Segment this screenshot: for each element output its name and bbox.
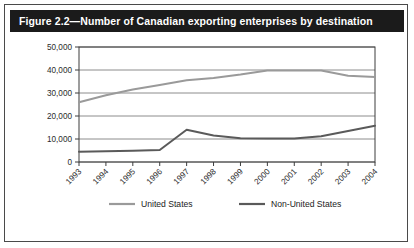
- chart-legend: United StatesNon-United States: [109, 199, 341, 209]
- x-axis-tick-label: 1993: [64, 167, 84, 187]
- y-axis-tick-label: 30,000: [47, 89, 72, 98]
- x-axis-tick-label: 2000: [253, 167, 273, 187]
- y-axis-tick-label: 20,000: [47, 112, 72, 121]
- plot-area-border: [79, 47, 375, 162]
- gridlines: [79, 47, 375, 162]
- x-axis-tick-label: 1994: [91, 167, 111, 187]
- legend-label-1: Non-United States: [271, 199, 341, 209]
- y-axis-tick-label: 40,000: [47, 66, 72, 75]
- x-axis-tick-label: 1997: [172, 167, 192, 187]
- x-axis-tick-label: 1996: [145, 167, 165, 187]
- x-axis-tick-label: 2003: [333, 167, 353, 187]
- y-axis-tick-label: 10,000: [47, 135, 72, 144]
- line-chart: 010,00020,00030,00040,00050,000 19931994…: [5, 33, 409, 241]
- figure-frame: Figure 2.2—Number of Canadian exporting …: [4, 4, 408, 242]
- x-axis: 1993199419951996199719981999200020012002…: [64, 162, 380, 186]
- data-series-layer: [79, 70, 375, 151]
- x-axis-tick-label: 2002: [306, 167, 326, 187]
- x-axis-tick-label: 2004: [360, 167, 380, 187]
- series-line-0: [79, 70, 375, 102]
- x-axis-tick-label: 2001: [279, 167, 299, 187]
- chart-canvas: 010,00020,00030,00040,00050,000 19931994…: [5, 33, 409, 241]
- y-axis-tick-label: 0: [67, 158, 72, 167]
- y-axis-tick-label: 50,000: [47, 43, 72, 52]
- figure-title: Figure 2.2—Number of Canadian exporting …: [10, 15, 373, 27]
- x-axis-tick-label: 1995: [118, 167, 138, 187]
- figure-title-bar: Figure 2.2—Number of Canadian exporting …: [10, 10, 404, 32]
- x-axis-tick-label: 1998: [199, 167, 219, 187]
- y-axis: 010,00020,00030,00040,00050,000: [47, 43, 79, 167]
- x-axis-tick-label: 1999: [226, 167, 246, 187]
- legend-label-0: United States: [141, 199, 193, 209]
